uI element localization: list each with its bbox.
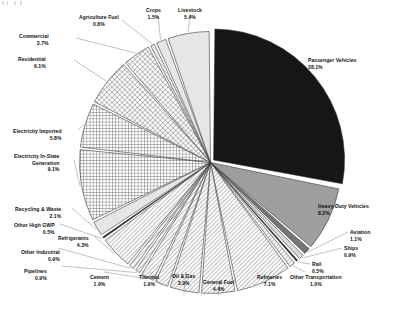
label-electricity-instate-generation: Electricity In-State Generation 9.1% [14, 153, 59, 173]
label-ships: Ships 0.9% [344, 245, 358, 258]
label-pct: 0.5% [14, 229, 55, 236]
label-pct: 0.9% [21, 256, 60, 263]
label-pct: 9.1% [14, 166, 59, 173]
label-name: Electricity Imported [13, 128, 62, 135]
label-pct: 7.1% [257, 281, 282, 288]
label-pct: 6.1% [18, 63, 46, 70]
label-pct: 1.9% [90, 281, 109, 288]
label-name: Crops [146, 7, 161, 14]
label-name: Cement [90, 274, 109, 281]
label-name: Residential [18, 56, 46, 63]
label-name: Refineries [257, 274, 282, 281]
label-pct: 5.8% [13, 135, 62, 142]
label-pct: 1.5% [146, 14, 161, 21]
label-name: Commercial [19, 33, 49, 40]
label-pct: 2.1% [15, 213, 61, 220]
leader-line [122, 20, 152, 44]
label-name-text: Pipelines [24, 268, 47, 275]
label-passenger-vehicles: Passenger Vehicles 28.1% [308, 57, 356, 70]
label-agriculture-fuel: Agriculture Fuel 0.8% [79, 14, 119, 27]
label-pct: 5.4% [178, 14, 202, 21]
label-name: Oil & Gas [172, 273, 195, 280]
label-pct: 0.9% [24, 275, 47, 282]
label-name: Ships [344, 245, 358, 252]
label-pct: 3.7% [19, 40, 49, 47]
label-pct: 28.1% [308, 64, 356, 71]
label-name: Aviation [350, 229, 370, 236]
label-other-transportation: Other Transportation 1.0% [290, 274, 342, 287]
label-cement: Cement 1.9% [90, 274, 109, 287]
pie-slices-group [79, 29, 344, 294]
label-refrigerants: Refrigerants 4.3% [58, 235, 89, 248]
label-name: General Fuel [203, 279, 234, 286]
label-name: Agriculture Fuel [79, 14, 119, 21]
label-name: Recycling & Waste [15, 206, 61, 213]
label-name: Thermal [139, 274, 159, 281]
label-name: Livestock [178, 7, 202, 14]
label-thermal: Thermal 1.9% [139, 274, 159, 287]
label-aviation: Aviation 1.1% [350, 229, 370, 242]
label-name: Other Transportation [290, 274, 342, 281]
leader-line [293, 266, 305, 272]
label-pipelines: Pipelines 0.9% [24, 268, 47, 281]
label-commercial: Commercial 3.7% [19, 33, 49, 46]
label-name: Heavy-Duty Vehicles [318, 203, 369, 210]
label-rail: Rail 0.5% [312, 261, 324, 274]
label-name: Rail [312, 261, 324, 268]
label-pct: 0.9% [344, 252, 358, 259]
label-pct: 3.9% [172, 280, 195, 287]
pie-slice [214, 29, 345, 184]
label-name-line2: Generation [14, 160, 59, 167]
label-other-industrial: Other Industrial 0.9% [21, 249, 60, 262]
label-pct: 8.2% [318, 210, 369, 217]
label-residential: Residential 6.1% [18, 56, 46, 69]
pie-chart-figure: Passenger Vehicles 28.1% Heavy-Duty Vehi… [0, 0, 395, 312]
label-heavy-duty-vehicles: Heavy-Duty Vehicles 8.2% [318, 203, 369, 216]
leader-line [78, 125, 84, 130]
label-livestock: Livestock 5.4% [178, 7, 202, 20]
label-name: Other Industrial [21, 249, 60, 256]
label-pct: 1.9% [139, 281, 159, 288]
leader-line [76, 38, 136, 53]
leader-line [74, 160, 80, 186]
label-name: Other High GWP [14, 222, 55, 229]
label-other-high-gwp: Other High GWP 0.5% [14, 222, 55, 235]
label-name: Passenger Vehicles [308, 57, 356, 64]
leader-line [74, 60, 106, 81]
label-oil-and-gas: Oil & Gas 3.9% [172, 273, 195, 286]
label-name: Refrigerants [58, 235, 89, 242]
label-pct: 1.0% [290, 281, 342, 288]
label-crops: Crops 1.5% [146, 7, 161, 20]
label-general-fuel: General Fuel 4.4% [203, 279, 234, 292]
label-name: Electricity In-State [14, 153, 59, 160]
label-pct: 1.1% [350, 236, 370, 243]
label-refineries: Refineries 7.1% [257, 274, 282, 287]
leader-line [298, 262, 310, 264]
label-electricity-imported: Electricity Imported 5.8% [13, 128, 62, 141]
label-pct: 4.4% [203, 286, 234, 293]
label-pct: 0.8% [79, 21, 119, 28]
label-pct: 4.3% [58, 242, 89, 249]
label-recycling-and-waste: Recycling & Waste 2.1% [15, 206, 61, 219]
